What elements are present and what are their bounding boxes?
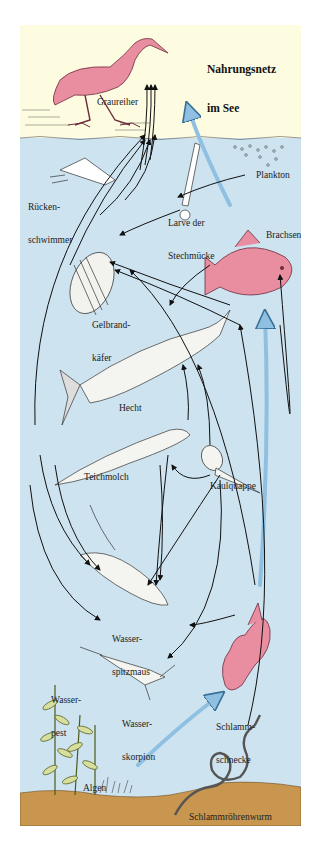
label-plankton: Plankton (256, 170, 290, 181)
label-graureiher: Graureiher (97, 97, 138, 108)
label-kaulquappe: Kaulquappe (210, 481, 256, 492)
diagram-title: Nahrungsnetz im See (207, 37, 276, 141)
label-brachsen: Brachsen (266, 230, 301, 241)
label-hecht: Hecht (119, 403, 142, 414)
label-teichmolch: Teichmolch (84, 472, 129, 483)
food-web-diagram: Nahrungsnetz im See Graureiher Rücken- s… (20, 25, 301, 826)
title-line-1: Nahrungsnetz (207, 63, 276, 76)
label-rueckenschwimmer: Rücken- schwimmer (28, 180, 72, 268)
label-gelbrandkaefer: Gelbrand- käfer (92, 298, 131, 386)
label-schlammroehrenwurm: Schlammröhrenwurm (189, 812, 272, 823)
label-wasserpest: Wasser- pest (51, 673, 81, 761)
label-wasserskorpion: Wasser- skorpion (122, 697, 155, 785)
label-schlammschnecke: Schlamm- schnecke (216, 700, 255, 788)
label-algen: Algen (83, 783, 106, 794)
label-wasserspitzmaus: Wasser- spitzmaus (112, 612, 150, 700)
title-line-2: im See (207, 102, 276, 115)
label-stechmueckenlarve: Larve der Stechmücke (168, 196, 214, 284)
